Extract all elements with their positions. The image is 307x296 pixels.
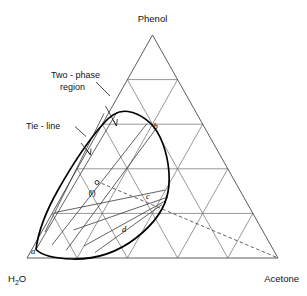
grid-line-right-4: [52, 213, 77, 258]
diagram-canvas: Phenol H2O Acetone Two - phase region Ti…: [0, 0, 307, 296]
annotation-liquid-phase: (l): [88, 188, 95, 197]
composition-point-marker: [95, 181, 99, 185]
annotation-two-phase-line2: region: [60, 82, 85, 92]
tie-line-8: [95, 205, 162, 253]
vertex-label-acetone: Acetone: [264, 273, 299, 284]
tie-line-family: [37, 112, 169, 253]
annotation-leaders: [75, 82, 117, 155]
grid-line-left-2: [127, 124, 202, 258]
point-label-b: b: [153, 121, 157, 131]
grid-line-right-2: [102, 124, 177, 258]
point-label-d: d: [122, 224, 127, 234]
ternary-phase-diagram: Phenol H2O Acetone Two - phase region Ti…: [0, 0, 307, 296]
tie-line-2: [37, 112, 118, 249]
grid-line-left-4: [228, 213, 253, 258]
point-label-c: c: [146, 191, 150, 201]
water-o: O: [19, 273, 26, 284]
annotation-two-phase-line1: Two - phase: [51, 70, 100, 80]
point-l-marker: [95, 181, 99, 185]
tie-line-leader-line: [75, 127, 86, 137]
vertex-label-phenol: Phenol: [138, 13, 168, 24]
point-label-a: a: [31, 246, 35, 256]
triangle-outline: [27, 35, 278, 258]
tie-line-1: [45, 114, 104, 233]
two-phase-leader-line: [96, 82, 110, 96]
binodal-curve-path: [36, 111, 169, 259]
ternary-grid: [52, 80, 253, 258]
annotation-tie-line: Tie - line: [26, 121, 60, 131]
vertex-label-water: H2O: [8, 273, 26, 286]
triangle-edge-right: [153, 35, 279, 258]
binodal-curve: [36, 111, 169, 259]
